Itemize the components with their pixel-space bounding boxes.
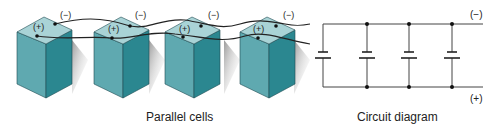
svg-text:(−): (−) xyxy=(135,10,146,20)
cell-symbols xyxy=(315,52,460,58)
cell-3 xyxy=(165,17,240,98)
circuit-diagram-caption: Circuit diagram xyxy=(357,110,438,124)
svg-text:(−): (−) xyxy=(283,10,294,20)
svg-text:(−): (−) xyxy=(208,10,219,20)
svg-text:(+): (+) xyxy=(253,24,264,34)
cell-4 xyxy=(240,17,310,98)
positive-terminal-label: (+) xyxy=(470,93,483,104)
negative-terminal-label: (−) xyxy=(470,9,483,20)
svg-text:(+): (+) xyxy=(33,22,44,32)
svg-text:(−): (−) xyxy=(60,10,71,20)
parallel-cells-figure: (+) (−) (+) (−) (+) (−) (+) (−) (−) (+) xyxy=(0,0,502,128)
parallel-cells-caption: Parallel cells xyxy=(146,110,213,124)
circuit-diagram xyxy=(323,24,483,87)
cell-1 xyxy=(17,17,88,98)
svg-text:(+): (+) xyxy=(179,24,190,34)
svg-text:(+): (+) xyxy=(108,24,119,34)
cell-2 xyxy=(94,17,165,98)
